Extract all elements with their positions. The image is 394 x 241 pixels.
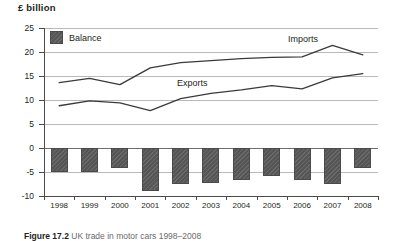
y-tick-mark xyxy=(39,148,44,149)
x-tick-mark xyxy=(287,196,288,200)
legend-label-balance: Balance xyxy=(69,33,102,43)
x-tick-mark xyxy=(196,196,197,200)
x-tick-mark xyxy=(257,196,258,200)
y-tick-mark xyxy=(39,28,44,29)
line-exports xyxy=(59,74,363,111)
legend-swatch-balance xyxy=(50,31,63,44)
caption-text: UK trade in motor cars 1998–2008 xyxy=(71,231,201,241)
x-tick-mark xyxy=(348,196,349,200)
y-tick-label: 0 xyxy=(8,143,34,153)
series-label-imports: Imports xyxy=(286,34,320,44)
y-tick-mark xyxy=(39,172,44,173)
y-tick-label: 5 xyxy=(8,119,34,129)
x-tick-mark xyxy=(74,196,75,200)
y-tick-mark xyxy=(39,52,44,53)
figure-caption: Figure 17.2 UK trade in motor cars 1998–… xyxy=(24,231,201,241)
x-tick-mark xyxy=(135,196,136,200)
series-lines xyxy=(44,28,378,196)
y-tick-label: -5 xyxy=(8,167,34,177)
y-tick-label: 20 xyxy=(8,47,34,57)
x-tick-mark xyxy=(317,196,318,200)
y-tick-label: 10 xyxy=(8,95,34,105)
x-tick-mark xyxy=(226,196,227,200)
x-tick-label-2008: 2008 xyxy=(343,201,383,210)
x-axis-line xyxy=(44,196,378,197)
x-tick-mark xyxy=(44,196,45,200)
y-tick-label: 25 xyxy=(8,23,34,33)
y-tick-label: -10 xyxy=(8,191,34,201)
y-tick-label: 15 xyxy=(8,71,34,81)
legend: Balance xyxy=(50,31,102,44)
y-tick-mark xyxy=(39,100,44,101)
x-tick-mark xyxy=(378,196,379,200)
x-tick-mark xyxy=(165,196,166,200)
y-tick-mark xyxy=(39,124,44,125)
caption-figure-number: Figure 17.2 xyxy=(24,231,69,241)
line-imports xyxy=(59,45,363,84)
x-tick-mark xyxy=(105,196,106,200)
y-axis-title: £ billion xyxy=(18,2,56,13)
y-tick-mark xyxy=(39,76,44,77)
series-label-exports: Exports xyxy=(175,78,210,88)
